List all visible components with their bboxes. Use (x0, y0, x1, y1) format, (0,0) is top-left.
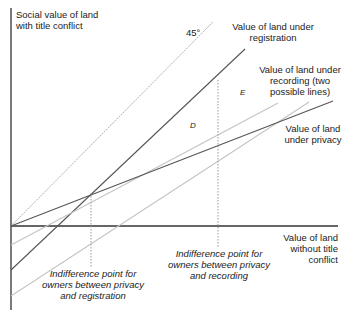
indifference-recording-annotation: Indifference point for owners between pr… (164, 248, 274, 281)
recording-label-line-3: possible lines) (256, 86, 344, 97)
indifference-registration-line-3: and registration (38, 290, 148, 301)
indifference-recording-line-3: and recording (164, 270, 274, 281)
registration-label-line-1: Value of land under (228, 21, 318, 32)
recording-label: Value of land under recording (two possi… (256, 64, 344, 97)
registration-line (11, 49, 245, 270)
x-axis-label-line-2: without title (263, 243, 338, 254)
indifference-registration-line-1: Indifference point for (38, 268, 148, 279)
registration-label-line-2: registration (228, 32, 318, 43)
x-axis-label: Value of land without title conflict (263, 232, 338, 265)
fortyfive-label: 45° (186, 27, 200, 38)
indifference-recording-line-1: Indifference point for (164, 248, 274, 259)
region-d-label: D (190, 120, 196, 131)
y-axis-label: Social value of land with title conflict (16, 9, 98, 31)
privacy-label-line-1: Value of land (283, 123, 343, 134)
y-axis-label-line-2: with title conflict (16, 20, 98, 31)
privacy-label-line-2: under privacy (283, 134, 343, 145)
registration-label: Value of land under registration (228, 21, 318, 43)
indifference-registration-annotation: Indifference point for owners between pr… (38, 268, 148, 301)
indifference-registration-line-2: owners between privacy (38, 279, 148, 290)
privacy-line (11, 101, 333, 226)
indifference-recording-line-2: owners between privacy (164, 259, 274, 270)
fortyfive-degree-line (11, 22, 213, 226)
y-axis-label-line-1: Social value of land (16, 9, 98, 20)
recording-label-line-1: Value of land under (256, 64, 344, 75)
x-axis-label-line-3: conflict (263, 254, 338, 265)
x-axis-label-line-1: Value of land (263, 232, 338, 243)
recording-label-line-2: recording (two (256, 75, 344, 86)
privacy-label: Value of land under privacy (283, 123, 343, 145)
region-e-label: E (240, 87, 245, 98)
